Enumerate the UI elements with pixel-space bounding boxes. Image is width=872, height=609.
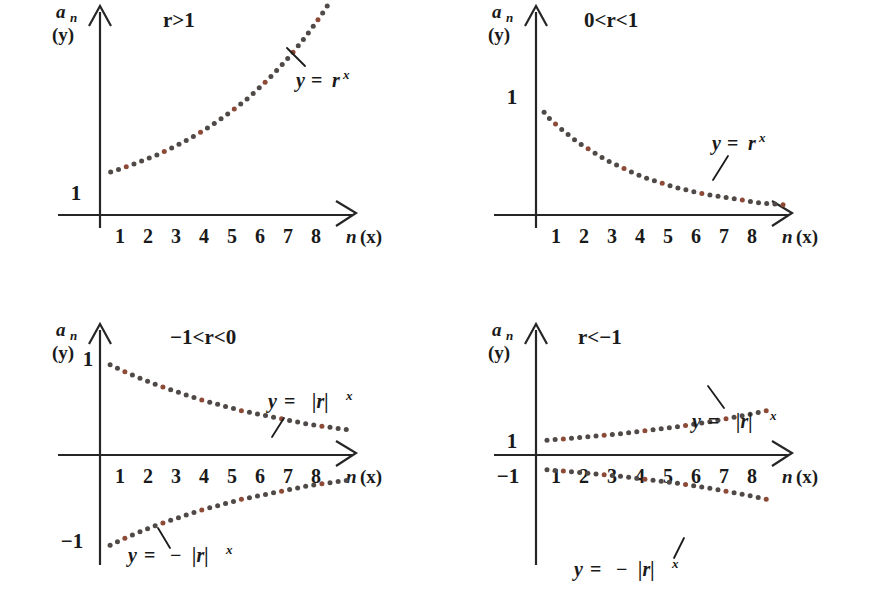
- x-axis: [58, 441, 356, 466]
- y-axis-label-sub: n: [70, 328, 77, 343]
- x-tick-2: 2: [143, 465, 153, 487]
- curve-label-y: y: [126, 544, 137, 567]
- x-axis: [494, 441, 792, 466]
- y-axis-label-main: a: [492, 319, 502, 340]
- curve-label-eq: =: [727, 132, 738, 154]
- y-axis-label-sub: n: [506, 10, 513, 25]
- figure-root: a n (y) n (x) r>1 1 1 2 3 4 5 6 7 8: [0, 0, 872, 609]
- x-tick-8: 8: [311, 225, 321, 247]
- y-axis-label-sub: n: [506, 328, 513, 343]
- x-tick-2: 2: [143, 225, 153, 247]
- x-axis-label-alt: (x): [796, 466, 818, 488]
- curve-label-exp: x: [345, 388, 353, 403]
- curve-label-eq: =: [144, 544, 155, 566]
- curve-label-base: r: [332, 69, 340, 91]
- leader-line-lower: [158, 528, 170, 548]
- curve-label-exp: x: [671, 556, 679, 571]
- curve-label-minus: −: [616, 558, 627, 580]
- y-tick-1: 1: [507, 85, 518, 109]
- curve-label-y-eq-rx: y = r x: [294, 67, 350, 92]
- x-tick-2: 2: [579, 225, 589, 247]
- x-tick-3: 3: [607, 225, 617, 247]
- x-axis: [58, 201, 356, 226]
- x-tick-5: 5: [227, 225, 237, 247]
- curve-label-eq: =: [284, 390, 295, 412]
- x-tick-6: 6: [691, 225, 701, 247]
- curve-label-y: y: [710, 132, 721, 155]
- y-tick-minus-1: −1: [61, 529, 83, 553]
- curve-label-exp: x: [225, 542, 233, 557]
- x-axis-label-main: n: [782, 466, 793, 487]
- y-axis-label-alt: (y): [52, 342, 74, 364]
- x-tick-8: 8: [747, 465, 757, 487]
- leader-line-lower: [674, 538, 684, 558]
- y-axis-label: a n (y): [488, 1, 513, 46]
- panel-bottom-right: a n (y) n (x) r<−1 1 −1 1 2 3 4 5 6 7 8: [436, 300, 872, 604]
- x-tick-7: 7: [719, 465, 729, 487]
- x-axis-label: n (x): [346, 466, 382, 488]
- curve-exponential-decay: [542, 110, 786, 207]
- leader-line-upper: [272, 418, 284, 437]
- x-tick-4: 4: [199, 225, 209, 247]
- panel-top-left: a n (y) n (x) r>1 1 1 2 3 4 5 6 7 8: [0, 0, 436, 304]
- y-tick-1: 1: [71, 181, 82, 205]
- y-axis-label: a n (y): [488, 319, 513, 364]
- curve-label-minus: −: [170, 544, 181, 566]
- x-tick-4: 4: [635, 225, 645, 247]
- x-tick-labels: 1 2 3 4 5 6 7 8: [551, 465, 757, 487]
- curve-label-exp: x: [342, 67, 350, 82]
- y-axis: [525, 324, 547, 565]
- x-tick-labels: 1 2 3 4 5 6 7 8: [115, 225, 321, 247]
- x-tick-1: 1: [551, 225, 561, 247]
- curve-label-y: y: [294, 69, 305, 92]
- curve-label-exp: x: [769, 408, 777, 423]
- panel-top-right: a n (y) n (x) 0<r<1 1 1 2 3 4 5 6 7 8: [436, 0, 872, 304]
- y-tick-minus-1: −1: [497, 464, 519, 488]
- panel-title: r>1: [163, 8, 195, 32]
- y-tick-1: 1: [83, 347, 94, 371]
- curve-label-eq: =: [590, 558, 601, 580]
- y-axis-label-sub: n: [70, 10, 77, 25]
- curve-label-exp: x: [758, 130, 766, 145]
- y-axis-label-alt: (y): [488, 24, 510, 46]
- x-axis: [494, 201, 792, 226]
- curve-label-base: |r|: [736, 410, 753, 433]
- curve-label-base: r: [748, 132, 756, 154]
- y-axis-label-main: a: [492, 1, 502, 22]
- y-axis-label-alt: (y): [488, 342, 510, 364]
- curve-neg-abs-r-power-x: [108, 478, 349, 548]
- curve-label-y-eq-neg-absr-x: y = − |r| x: [572, 556, 679, 581]
- x-tick-labels: 1 2 3 4 5 6 7 8: [115, 465, 321, 487]
- x-tick-2: 2: [579, 465, 589, 487]
- panel-title: −1<r<0: [170, 325, 236, 349]
- curve-label-base: |r|: [192, 544, 209, 567]
- curve-label-y-eq-rx: y = r x: [710, 130, 766, 155]
- y-axis-label: a n (y): [52, 319, 77, 364]
- x-tick-labels: 1 2 3 4 5 6 7 8: [551, 225, 757, 247]
- curve-label-y: y: [572, 558, 583, 581]
- x-axis-label-main: n: [782, 226, 793, 247]
- x-axis-label-alt: (x): [360, 226, 382, 248]
- x-tick-7: 7: [719, 225, 729, 247]
- panel-title: r<−1: [578, 325, 622, 349]
- x-tick-7: 7: [283, 465, 293, 487]
- x-tick-8: 8: [747, 225, 757, 247]
- curve-label-eq: =: [311, 69, 322, 91]
- x-tick-1: 1: [115, 465, 125, 487]
- leader-line: [713, 156, 728, 180]
- curve-label-y: y: [690, 410, 701, 433]
- x-tick-7: 7: [283, 225, 293, 247]
- curve-label-eq: =: [708, 410, 719, 432]
- x-tick-3: 3: [171, 465, 181, 487]
- curve-label-base: |r|: [312, 390, 329, 413]
- x-axis-label-main: n: [346, 226, 357, 247]
- x-tick-3: 3: [171, 225, 181, 247]
- y-axis: [525, 6, 547, 228]
- curve-label-y-eq-neg-absr-x: y = − |r| x: [126, 542, 233, 567]
- curve-label-base: |r|: [638, 558, 655, 581]
- y-axis-label: a n (y): [52, 1, 77, 46]
- x-tick-6: 6: [255, 225, 265, 247]
- x-tick-5: 5: [663, 225, 673, 247]
- curve-label-y-eq-absr-x: y = |r| x: [266, 388, 353, 413]
- x-tick-5: 5: [227, 465, 237, 487]
